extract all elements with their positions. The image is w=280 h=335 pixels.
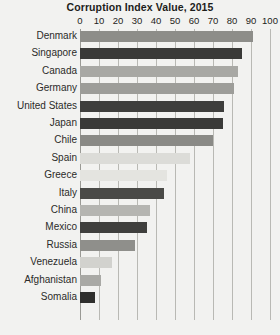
bar (80, 222, 147, 233)
category-label: Denmark (36, 30, 77, 42)
bar-row: Mexico (0, 220, 280, 237)
x-tick-label: 90 (246, 15, 257, 26)
x-axis-tick-labels: 0102030405060708090100 (0, 15, 280, 28)
x-tick-label: 30 (132, 15, 143, 26)
category-label: Russia (46, 239, 77, 251)
bar-row: Singapore (0, 46, 280, 63)
bar-row: Afghanistan (0, 273, 280, 290)
bar (80, 101, 224, 112)
bar (80, 66, 238, 77)
x-tick-label: 10 (94, 15, 105, 26)
category-label: Italy (59, 187, 77, 199)
bar-row: United States (0, 99, 280, 116)
bar-row: Russia (0, 238, 280, 255)
x-tick-label: 20 (113, 15, 124, 26)
category-label: Japan (50, 117, 77, 129)
bar (80, 31, 253, 42)
bar (80, 48, 242, 59)
category-label: Venezuela (30, 256, 77, 268)
x-tick-label: 40 (151, 15, 162, 26)
bar-row: Germany (0, 81, 280, 98)
bar (80, 205, 150, 216)
bar (80, 292, 95, 303)
bar-row: Canada (0, 64, 280, 81)
bar (80, 153, 190, 164)
category-label: Germany (36, 82, 77, 94)
bar (80, 257, 112, 268)
category-label: Chile (54, 134, 77, 146)
bar (80, 118, 223, 129)
chart-title: Corruption Index Value, 2015 (0, 1, 280, 13)
bar-row: Italy (0, 186, 280, 203)
x-tick-label: 0 (77, 15, 82, 26)
bar-row: Japan (0, 116, 280, 133)
category-label: China (51, 204, 77, 216)
x-tick-label: 50 (170, 15, 181, 26)
category-label: Singapore (31, 47, 77, 59)
x-tick-label: 80 (227, 15, 238, 26)
category-label: Spain (51, 152, 77, 164)
bar-row: Somalia (0, 290, 280, 307)
corruption-index-bar-chart: Corruption Index Value, 2015 01020304050… (0, 0, 280, 335)
bar-row: Denmark (0, 29, 280, 46)
bar (80, 275, 101, 286)
bar-row: China (0, 203, 280, 220)
x-tick-label: 60 (189, 15, 200, 26)
bar (80, 135, 213, 146)
bar-row: Spain (0, 151, 280, 168)
bar-row: Greece (0, 168, 280, 185)
category-label: Greece (44, 169, 77, 181)
category-label: Afghanistan (24, 274, 77, 286)
category-label: United States (17, 100, 77, 112)
bar (80, 188, 164, 199)
bar (80, 170, 167, 181)
bar (80, 240, 135, 251)
bar (80, 83, 234, 94)
bar-row: Chile (0, 133, 280, 150)
x-tick-label: 70 (208, 15, 219, 26)
bottom-caption (4, 329, 276, 335)
x-tick-label: 100 (262, 15, 278, 26)
bar-row: Venezuela (0, 255, 280, 272)
category-label: Somalia (41, 291, 77, 303)
category-label: Canada (42, 65, 77, 77)
bar-rows: DenmarkSingaporeCanadaGermanyUnited Stat… (0, 29, 280, 320)
category-label: Mexico (45, 221, 77, 233)
